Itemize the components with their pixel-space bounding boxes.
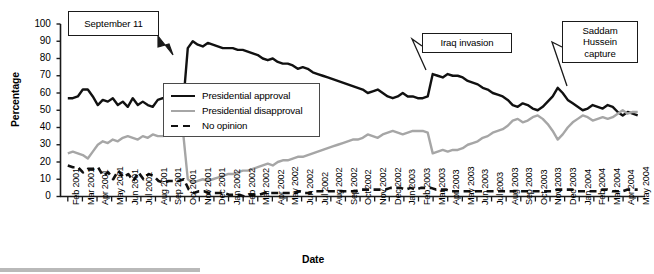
x-tick-label: Feb 2004 [597, 168, 607, 205]
x-tick-label: Sep 2002 [349, 167, 359, 204]
legend-label-no-opinion: No opinion [202, 120, 247, 131]
annotation-saddam-hussein-capture: Saddam Hussein capture [562, 21, 638, 63]
y-tick-label: 40 [25, 121, 51, 132]
legend-label-disapproval: Presidential disapproval [202, 105, 302, 116]
x-tick-label: Apr 2002 [276, 169, 286, 204]
x-tick-label: Jan 2003 [407, 169, 417, 205]
y-tick-label: 10 [25, 173, 51, 184]
x-tick-label: Aug 2003 [510, 167, 520, 204]
x-axis-title: Date [302, 254, 324, 265]
x-tick-label: Feb 2002 [247, 168, 257, 205]
x-tick-label: Dec 2002 [393, 167, 403, 204]
x-tick-label: Jun 2003 [480, 169, 490, 205]
x-tick-label: Jan 2004 [583, 169, 593, 205]
x-tick-label: Jan 2002 [232, 169, 242, 205]
y-tick-label: 50 [25, 104, 51, 115]
footer-divider [0, 268, 200, 272]
legend-item-presidential-approval: Presidential approval [171, 88, 313, 103]
y-tick-label: 90 [25, 35, 51, 46]
x-tick-label: Jul 2002 [320, 172, 330, 205]
y-tick-label: 100 [25, 18, 51, 29]
x-tick-label: Jul 2001 [144, 172, 154, 205]
x-tick-label: Nov 2002 [378, 167, 388, 204]
chart-figure: Percentage Date 0102030405060708090100 F… [0, 0, 654, 274]
legend-item-presidential-disapproval: Presidential disapproval [171, 103, 313, 118]
annotation-september-11-text: September 11 [84, 18, 142, 30]
x-tick-label: Oct 2001 [188, 169, 198, 204]
x-tick-label: Sep 2001 [173, 167, 183, 204]
dashed-black-line-icon [171, 121, 195, 131]
x-tick-label: Jun 2002 [305, 169, 315, 205]
y-axis-title: Percentage [10, 60, 21, 140]
x-tick-label: Nov 2003 [553, 167, 563, 204]
x-tick-label: Aug 2001 [159, 167, 169, 204]
x-tick-label: Aug 2002 [334, 167, 344, 204]
x-tick-label: Jul 2003 [495, 172, 505, 205]
y-tick-label: 70 [25, 69, 51, 80]
x-tick-label: Mar 2003 [437, 168, 447, 205]
y-tick-label: 20 [25, 156, 51, 167]
x-tick-label: Oct 2002 [363, 169, 373, 204]
solid-black-line-icon [171, 91, 195, 101]
x-tick-label: Apr 2004 [626, 169, 636, 204]
x-tick-label: Feb 2003 [422, 168, 432, 205]
x-tick-label: Jun 2001 [130, 169, 140, 205]
x-tick-label: Mar 2002 [261, 168, 271, 205]
annotation-september-11: September 11 [68, 11, 159, 36]
x-tick-label: Mar 2001 [86, 168, 96, 205]
y-tick-label: 60 [25, 87, 51, 98]
annotation-iraq-invasion: Iraq invasion [422, 33, 512, 53]
legend-item-no-opinion: No opinion [171, 118, 313, 133]
x-tick-label: Dec 2003 [568, 167, 578, 204]
chart-legend: Presidential approval Presidential disap… [163, 83, 320, 137]
y-tick-label: 0 [25, 190, 51, 201]
x-tick-label: May 2003 [466, 166, 476, 204]
annotation-saddam-line-3: capture [584, 48, 615, 60]
annotation-iraq-invasion-text: Iraq invasion [440, 37, 493, 49]
x-tick-label: Dec 2001 [217, 167, 227, 204]
y-tick-label: 30 [25, 138, 51, 149]
x-tick-label: May 2004 [641, 166, 651, 204]
legend-label-approval: Presidential approval [202, 90, 290, 101]
x-tick-label: May 2001 [115, 166, 125, 204]
solid-gray-line-icon [171, 106, 195, 116]
x-tick-label: Apr 2003 [451, 169, 461, 204]
x-tick-label: Sep 2003 [524, 167, 534, 204]
x-tick-label: May 2002 [290, 166, 300, 204]
x-tick-label: Apr 2001 [100, 169, 110, 204]
y-tick-label: 80 [25, 52, 51, 63]
x-tick-label: Oct 2003 [539, 169, 549, 204]
x-tick-label: Feb 2001 [71, 168, 81, 205]
annotation-saddam-line-2: Hussein [583, 36, 617, 48]
x-tick-label: Mar 2004 [612, 168, 622, 205]
annotation-saddam-line-1: Saddam [582, 25, 617, 37]
series-line [68, 41, 638, 115]
chart-canvas [0, 0, 654, 274]
x-tick-label: Nov 2001 [203, 167, 213, 204]
